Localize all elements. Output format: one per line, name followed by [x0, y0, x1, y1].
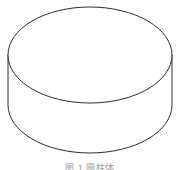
figure-container: 图 1 圆柱体 — [0, 0, 180, 170]
top-face-fill — [8, 7, 172, 103]
figure-caption: 图 1 圆柱体 — [0, 163, 180, 170]
cylinder-diagram — [0, 0, 180, 170]
top-face-group — [8, 7, 172, 103]
